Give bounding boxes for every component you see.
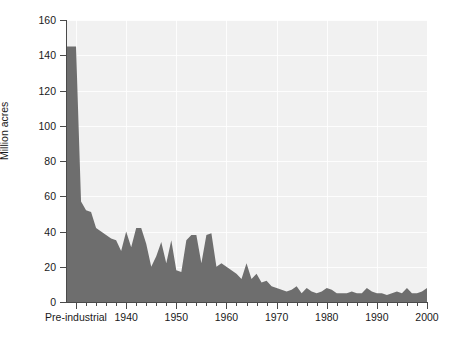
x-axis-tick-label: 1990 <box>365 311 388 323</box>
x-axis-tick-minor <box>216 303 217 306</box>
y-axis-tick <box>60 126 66 127</box>
x-axis-tick-minor <box>156 303 157 306</box>
x-axis-tick-major <box>226 303 227 309</box>
x-axis-tick-minor <box>106 303 107 306</box>
x-axis-tick-minor <box>357 303 358 306</box>
x-axis-tick-minor <box>116 303 117 306</box>
x-axis-tick-minor <box>146 303 147 306</box>
x-axis-tick-minor <box>337 303 338 306</box>
y-axis-tick-label: 80 <box>0 155 56 167</box>
x-axis-tick-minor <box>347 303 348 306</box>
x-axis-tick-minor <box>267 303 268 306</box>
x-axis-tick-label: Pre-industrial <box>45 311 107 323</box>
x-axis-tick-label: 1940 <box>114 311 137 323</box>
x-axis-tick-minor <box>307 303 308 306</box>
x-axis-tick-minor <box>397 303 398 306</box>
x-axis-tick-minor <box>317 303 318 306</box>
x-axis-tick-major <box>327 303 328 309</box>
x-axis-tick-major <box>377 303 378 309</box>
y-axis-tick <box>60 196 66 197</box>
y-axis-tick-label: 40 <box>0 226 56 238</box>
x-axis-tick-minor <box>247 303 248 306</box>
y-axis-tick-label: 20 <box>0 261 56 273</box>
y-axis-tick <box>60 55 66 56</box>
y-axis-tick-label: 60 <box>0 190 56 202</box>
x-axis-tick-label: 1970 <box>265 311 288 323</box>
y-axis-tick-label: 160 <box>0 14 56 26</box>
y-axis-tick-label: 100 <box>0 120 56 132</box>
area-series <box>66 20 427 302</box>
y-axis-tick <box>60 20 66 21</box>
x-axis-tick-minor <box>297 303 298 306</box>
y-axis-tick <box>60 232 66 233</box>
y-axis-line <box>66 20 67 303</box>
y-axis-tick <box>60 267 66 268</box>
y-axis-tick <box>60 91 66 92</box>
y-axis-tick-label: 120 <box>0 85 56 97</box>
x-axis-tick-major <box>277 303 278 309</box>
x-axis-tick-minor <box>257 303 258 306</box>
chart-root: Million acres 020406080100120140160 Pre-… <box>0 0 450 339</box>
x-axis-tick-minor <box>206 303 207 306</box>
x-axis-tick-label: 1950 <box>165 311 188 323</box>
x-axis-tick-minor <box>287 303 288 306</box>
x-axis-tick-minor <box>186 303 187 306</box>
x-axis-tick-minor <box>387 303 388 306</box>
x-axis-tick-minor <box>136 303 137 306</box>
x-axis-tick-minor <box>367 303 368 306</box>
gridline-vertical <box>427 20 428 302</box>
x-axis-tick-major <box>76 303 77 309</box>
x-axis-tick-minor <box>96 303 97 306</box>
x-axis-tick-minor <box>407 303 408 306</box>
y-axis-tick-label: 140 <box>0 49 56 61</box>
x-axis-tick-minor <box>236 303 237 306</box>
x-axis-tick-label: 1980 <box>315 311 338 323</box>
x-axis-tick-label: 1960 <box>215 311 238 323</box>
x-axis-tick-minor <box>166 303 167 306</box>
y-axis-tick <box>60 302 66 303</box>
plot-area <box>66 20 427 302</box>
x-axis-tick-major <box>126 303 127 309</box>
y-axis-tick <box>60 161 66 162</box>
x-axis-tick-minor <box>417 303 418 306</box>
x-axis-tick-label: 2000 <box>415 311 438 323</box>
x-axis-tick-major <box>427 303 428 309</box>
x-axis-tick-minor <box>86 303 87 306</box>
x-axis-tick-minor <box>196 303 197 306</box>
y-axis-tick-label: 0 <box>0 296 56 308</box>
x-axis-tick-major <box>176 303 177 309</box>
